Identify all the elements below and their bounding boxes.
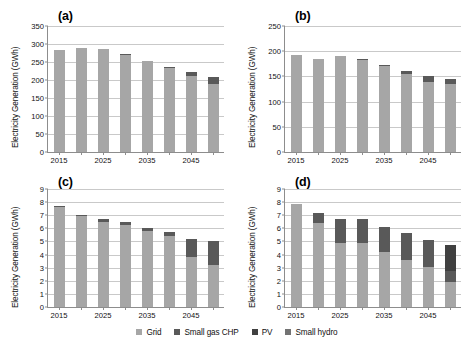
- x-tick: [445, 152, 456, 166]
- x-tick-label: 2035: [139, 156, 156, 165]
- bar-segment-grid: [120, 55, 131, 152]
- y-tick-label: 4: [277, 250, 281, 259]
- y-tick-label: 100: [31, 112, 44, 121]
- legend-item-grid[interactable]: Grid: [136, 328, 161, 337]
- x-tick: 2015: [54, 152, 65, 166]
- bar-2050: [208, 241, 219, 307]
- x-tick: 2015: [291, 152, 302, 166]
- bar-segment-grid: [54, 50, 65, 152]
- bar-2035: [379, 65, 390, 152]
- bar-2030: [120, 54, 131, 152]
- legend-item-pv[interactable]: PV: [252, 328, 273, 337]
- x-tick-mark: [169, 307, 170, 310]
- panel-b-y-axis-title: Electricity Generation (GWh): [248, 47, 257, 148]
- x-tick-mark: [191, 307, 192, 310]
- y-tick-label: 8: [277, 198, 281, 207]
- bar-segment-grid: [313, 223, 324, 307]
- y-tick-label: 9: [277, 185, 281, 194]
- legend-label: Small gas CHP: [184, 328, 238, 337]
- x-tick-mark: [147, 307, 148, 310]
- x-tick-mark: [450, 307, 451, 310]
- bar-2045: [423, 240, 434, 307]
- bar-2020: [313, 59, 324, 152]
- legend-label: PV: [262, 328, 273, 337]
- panel-b-x-ticks: 2015202520352045: [285, 152, 461, 166]
- legend-item-small-hydro[interactable]: Small hydro: [285, 328, 337, 337]
- x-tick-mark: [384, 307, 385, 310]
- x-tick-mark: [384, 152, 385, 155]
- bar-segment-small-gas-chp: [186, 239, 197, 257]
- y-tick-label: 2: [40, 276, 44, 285]
- y-tick-label: 0: [40, 303, 44, 312]
- panel-b-title: (b): [295, 9, 310, 23]
- bar-2045: [186, 239, 197, 307]
- x-tick-mark: [428, 152, 429, 155]
- panel-c-title: (c): [58, 175, 73, 189]
- x-tick-mark: [340, 307, 341, 310]
- x-tick: 2025: [335, 152, 346, 166]
- panel-a-bars: [48, 26, 224, 152]
- bar-segment-grid: [76, 48, 87, 152]
- bar-segment-grid: [186, 76, 197, 152]
- bar-2020: [76, 215, 87, 307]
- x-tick: 2025: [98, 152, 109, 166]
- bar-2040: [401, 71, 412, 152]
- bar-2030: [120, 222, 131, 307]
- legend-swatch-icon: [136, 329, 142, 335]
- bar-segment-small-gas-chp: [445, 271, 456, 282]
- x-tick-mark: [340, 152, 341, 155]
- x-tick-mark: [147, 152, 148, 155]
- panel-b-plot-area: 050100150200250 2015202520352045: [284, 26, 461, 153]
- y-tick-label: 5: [277, 237, 281, 246]
- bar-2015: [54, 206, 65, 307]
- bar-2045: [186, 72, 197, 152]
- x-tick-mark: [296, 152, 297, 155]
- bar-segment-grid: [76, 216, 87, 307]
- x-tick: [164, 152, 175, 166]
- y-tick-label: 8: [40, 198, 44, 207]
- bar-segment-grid: [164, 236, 175, 307]
- x-tick-mark: [103, 307, 104, 310]
- x-tick-mark: [406, 307, 407, 310]
- bar-segment-grid: [379, 66, 390, 152]
- bar-segment-grid: [423, 82, 434, 152]
- x-tick: [357, 152, 368, 166]
- x-tick-mark: [362, 307, 363, 310]
- bar-2030: [357, 219, 368, 307]
- bar-segment-grid: [379, 252, 390, 307]
- panel-a-plot-area: 050100150200250300350 2015202520352045: [47, 26, 224, 153]
- panel-d-title: (d): [295, 175, 310, 189]
- legend-item-small-gas-chp[interactable]: Small gas CHP: [174, 328, 238, 337]
- x-tick-mark: [125, 152, 126, 155]
- bar-segment-grid: [335, 56, 346, 152]
- figure-four-panel-stacked-bar-chart: (a) Electricity Generation (GWh) 0501001…: [0, 0, 474, 346]
- x-tick-mark: [59, 152, 60, 155]
- panel-c-bars: [48, 189, 224, 307]
- bar-2020: [76, 48, 87, 152]
- legend-swatch-icon: [285, 329, 291, 335]
- x-tick-label: 2045: [183, 156, 200, 165]
- x-tick-mark: [81, 152, 82, 155]
- bar-2040: [401, 233, 412, 307]
- x-tick: [208, 152, 219, 166]
- bar-2045: [423, 76, 434, 152]
- x-tick: 2045: [186, 152, 197, 166]
- chart-legend: GridSmall gas CHPPVSmall hydro: [0, 318, 474, 346]
- bar-2015: [291, 204, 302, 307]
- bar-segment-grid: [186, 257, 197, 307]
- bar-segment-small-gas-chp: [208, 241, 219, 264]
- bar-segment-grid: [98, 222, 109, 307]
- x-tick-mark: [81, 307, 82, 310]
- y-tick-label: 200: [268, 47, 281, 56]
- bar-2030: [357, 59, 368, 152]
- x-tick-mark: [213, 307, 214, 310]
- y-tick-label: 150: [268, 72, 281, 81]
- x-tick-label: 2045: [420, 156, 437, 165]
- bar-segment-grid: [142, 61, 153, 152]
- bar-2050: [445, 245, 456, 307]
- bar-segment-grid: [423, 267, 434, 307]
- bar-segment-grid: [208, 84, 219, 152]
- y-tick-label: 250: [268, 22, 281, 31]
- bar-segment-small-gas-chp: [401, 233, 412, 259]
- x-tick-mark: [213, 152, 214, 155]
